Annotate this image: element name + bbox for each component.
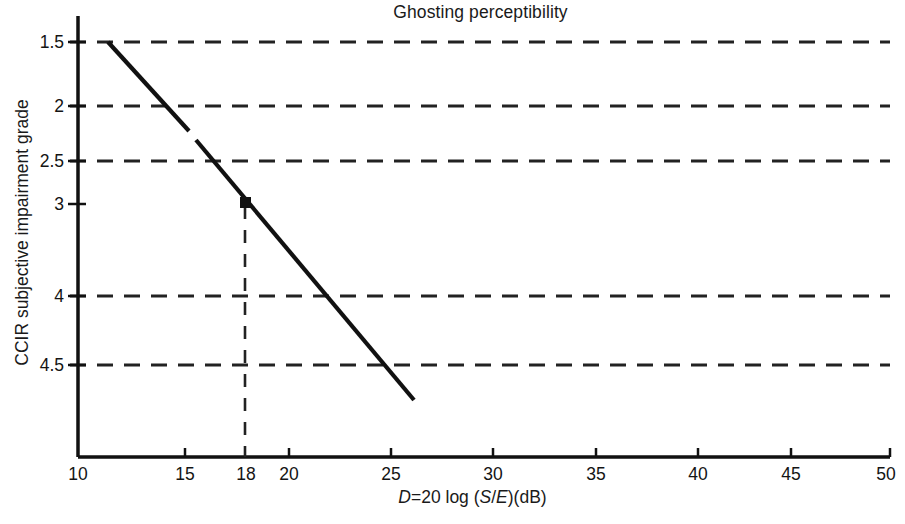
- operating-point-marker: [240, 197, 251, 208]
- curve-segment-upper: [108, 42, 189, 131]
- data-curve: [108, 42, 414, 400]
- gridlines-horizontal: [70, 42, 890, 365]
- plot-area: [0, 0, 905, 524]
- curve-segment-lower: [196, 140, 414, 400]
- axes: [78, 16, 890, 457]
- chart-figure: Ghosting perceptibility CCIR subjective …: [0, 0, 905, 524]
